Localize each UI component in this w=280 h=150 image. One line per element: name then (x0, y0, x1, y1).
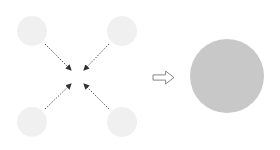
transition-arrow-icon (153, 71, 174, 84)
small-particle-top-left (17, 16, 47, 46)
large-particle-group (190, 39, 264, 113)
small-particle-bottom-left (17, 107, 47, 137)
arrow-from-bottom-left (45, 84, 71, 109)
small-particles-group (17, 16, 137, 137)
converging-arrows-group (45, 44, 109, 109)
small-particle-bottom-right (107, 107, 137, 137)
arrow-from-top-left (45, 44, 71, 70)
arrow-from-top-right (84, 44, 109, 70)
arrow-from-bottom-right (84, 84, 109, 109)
hollow-arrow-shape (153, 71, 174, 84)
small-particle-top-right (107, 16, 137, 46)
diagram-canvas (0, 0, 280, 150)
large-particle (190, 39, 264, 113)
merge-diagram (0, 0, 280, 150)
